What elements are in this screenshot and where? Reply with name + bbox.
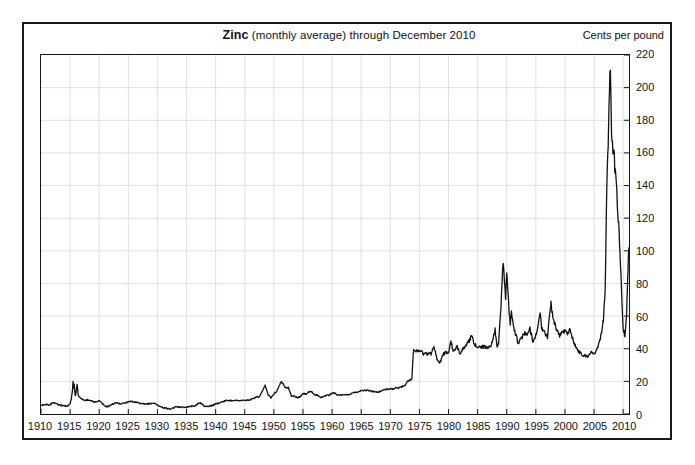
- y-tick-220: 220: [636, 48, 654, 60]
- chart-title-detail: (monthly average) through December 2010: [249, 29, 476, 41]
- x-tick-1950: 1950: [261, 420, 285, 432]
- x-tick-1985: 1985: [466, 420, 490, 432]
- zinc-price-line: [41, 70, 629, 409]
- x-tick-1970: 1970: [378, 420, 402, 432]
- x-tick-1940: 1940: [203, 420, 227, 432]
- y-axis-units-label: Cents per pound: [583, 29, 664, 41]
- x-tick-2005: 2005: [583, 420, 607, 432]
- chart-screenshot: Zinc (monthly average) through December …: [0, 0, 695, 465]
- x-tick-1945: 1945: [232, 420, 256, 432]
- x-tick-1955: 1955: [291, 420, 315, 432]
- page-title: Zinc (monthly average) through December …: [24, 28, 674, 42]
- y-tick-100: 100: [636, 245, 654, 257]
- x-tick-1965: 1965: [349, 420, 373, 432]
- y-tick-120: 120: [636, 212, 654, 224]
- x-tick-1920: 1920: [86, 420, 110, 432]
- y-tick-20: 20: [636, 376, 648, 388]
- plot-area: [40, 54, 630, 415]
- figure-frame: Zinc (monthly average) through December …: [22, 22, 672, 440]
- x-tick-1980: 1980: [437, 420, 461, 432]
- y-tick-160: 160: [636, 146, 654, 158]
- y-tick-60: 60: [636, 311, 648, 323]
- x-tick-2010: 2010: [612, 420, 636, 432]
- y-tick-80: 80: [636, 278, 648, 290]
- y-tick-180: 180: [636, 114, 654, 126]
- x-tick-1975: 1975: [407, 420, 431, 432]
- x-tick-1915: 1915: [57, 420, 81, 432]
- x-tick-2000: 2000: [553, 420, 577, 432]
- axis-tick-marks: [41, 55, 629, 414]
- y-tick-140: 140: [636, 179, 654, 191]
- x-tick-1960: 1960: [320, 420, 344, 432]
- y-tick-40: 40: [636, 343, 648, 355]
- price-line-chart: [41, 55, 629, 414]
- x-tick-1935: 1935: [174, 420, 198, 432]
- gridlines: [41, 55, 629, 414]
- chart-title-commodity: Zinc: [222, 28, 248, 42]
- x-tick-1930: 1930: [145, 420, 169, 432]
- y-tick-0: 0: [636, 409, 642, 421]
- x-tick-1990: 1990: [495, 420, 519, 432]
- x-tick-1910: 1910: [28, 420, 52, 432]
- x-tick-1995: 1995: [524, 420, 548, 432]
- y-tick-200: 200: [636, 81, 654, 93]
- x-tick-1925: 1925: [115, 420, 139, 432]
